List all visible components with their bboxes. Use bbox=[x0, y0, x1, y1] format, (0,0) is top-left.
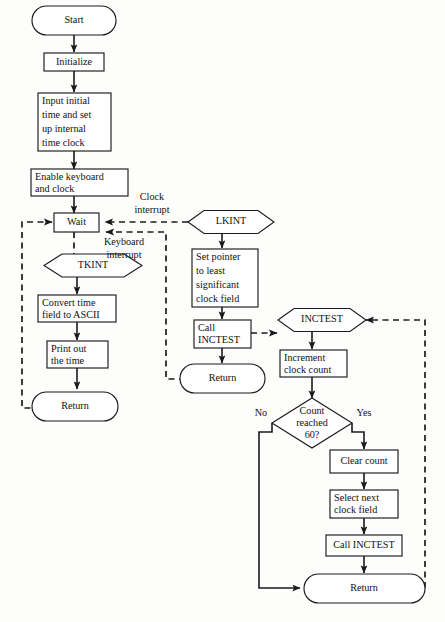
node-convert-time[interactable]: Convert time field to ASCII bbox=[38, 295, 116, 322]
label-clock-interrupt-line1: Clock bbox=[140, 191, 165, 202]
node-count-reached-line1: Count bbox=[300, 405, 325, 416]
node-print-time-line1: Print out bbox=[51, 343, 87, 354]
node-count-reached-line3: 60? bbox=[305, 429, 320, 440]
node-convert-time-line1: Convert time bbox=[42, 297, 96, 308]
node-wait-label: Wait bbox=[67, 216, 86, 227]
node-print-time-line2: the time bbox=[51, 355, 85, 366]
flowchart-page: Start Initialize Input initial time and … bbox=[0, 0, 445, 622]
node-lkint-return[interactable]: Return bbox=[180, 364, 265, 393]
node-wait[interactable]: Wait bbox=[54, 213, 99, 232]
node-lkint-label: LKINT bbox=[216, 215, 247, 226]
node-initialize-label: Initialize bbox=[56, 56, 93, 67]
node-set-pointer-line1: Set pointer bbox=[196, 251, 241, 262]
label-decision-yes: Yes bbox=[357, 407, 372, 418]
node-input-initial[interactable]: Input initial time and set up internal t… bbox=[38, 93, 111, 151]
node-count-reached-decision[interactable]: Count reached 60? bbox=[272, 398, 352, 448]
edge-yes-clearcount bbox=[352, 423, 364, 449]
node-select-next-line1: Select next bbox=[334, 492, 379, 503]
node-lkint-return-label: Return bbox=[209, 372, 237, 383]
node-set-pointer-line2: to least bbox=[196, 265, 225, 276]
node-input-initial-line4: time clock bbox=[42, 137, 86, 148]
node-select-next[interactable]: Select next clock field bbox=[330, 490, 398, 518]
node-tkint-return-label: Return bbox=[61, 400, 89, 411]
node-increment-count-line2: clock count bbox=[284, 364, 331, 375]
node-print-time[interactable]: Print out the time bbox=[47, 341, 108, 368]
node-call-inctest-2[interactable]: Call INCTEST bbox=[326, 535, 402, 556]
label-keyboard-interrupt-line2: interrupt bbox=[106, 249, 141, 260]
node-lkint[interactable]: LKINT bbox=[188, 211, 274, 234]
node-clear-count-label: Clear count bbox=[340, 455, 387, 466]
node-enable-keyboard[interactable]: Enable keyboard and clock bbox=[31, 169, 128, 196]
node-set-pointer-line3: significant bbox=[196, 279, 239, 290]
node-start-label: Start bbox=[64, 14, 83, 25]
node-initialize[interactable]: Initialize bbox=[44, 53, 104, 71]
node-convert-time-line2: field to ASCII bbox=[42, 309, 100, 320]
node-inctest[interactable]: INCTEST bbox=[278, 309, 366, 332]
node-start[interactable]: Start bbox=[32, 6, 116, 35]
node-increment-count[interactable]: Increment clock count bbox=[280, 350, 347, 377]
node-tkint-return[interactable]: Return bbox=[32, 392, 118, 421]
node-input-initial-line3: up internal bbox=[42, 123, 86, 134]
label-decision-no: No bbox=[255, 407, 267, 418]
label-clock-interrupt-line2: interrupt bbox=[134, 204, 169, 215]
node-call-inctest-1-line1: Call bbox=[198, 322, 215, 333]
node-clear-count[interactable]: Clear count bbox=[330, 450, 398, 473]
node-call-inctest-2-label: Call INCTEST bbox=[333, 539, 395, 550]
node-inctest-label: INCTEST bbox=[301, 313, 344, 324]
node-call-inctest-1-line2: INCTEST bbox=[198, 334, 241, 345]
node-inctest-return[interactable]: Return bbox=[304, 574, 425, 603]
node-select-next-line2: clock field bbox=[334, 504, 377, 515]
node-tkint-label: TKINT bbox=[78, 259, 109, 270]
node-count-reached-line2: reached bbox=[296, 417, 328, 428]
node-input-initial-line1: Input initial bbox=[42, 95, 90, 106]
node-set-pointer[interactable]: Set pointer to least significant clock f… bbox=[192, 249, 258, 307]
node-call-inctest-1[interactable]: Call INCTEST bbox=[194, 320, 251, 348]
node-enable-keyboard-line1: Enable keyboard bbox=[35, 171, 104, 182]
flowchart-svg: Start Initialize Input initial time and … bbox=[0, 0, 445, 622]
label-keyboard-interrupt-line1: Keyboard bbox=[104, 236, 144, 247]
node-inctest-return-label: Return bbox=[350, 582, 378, 593]
node-input-initial-line2: time and set bbox=[42, 109, 91, 120]
edge-no-return bbox=[259, 423, 300, 588]
node-enable-keyboard-line2: and clock bbox=[35, 183, 75, 194]
node-increment-count-line1: Increment bbox=[284, 352, 325, 363]
node-set-pointer-line4: clock field bbox=[196, 293, 239, 304]
